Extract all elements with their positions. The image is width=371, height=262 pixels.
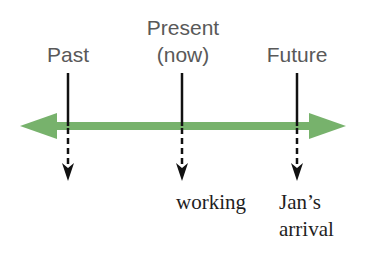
label-arrival: arrival <box>279 216 334 242</box>
present-down-arrow-icon <box>176 163 188 181</box>
label-now: (now) <box>137 43 229 67</box>
arrowhead-right-icon <box>309 113 346 139</box>
past-down-arrow-icon <box>62 163 74 181</box>
label-future: Future <box>257 43 337 67</box>
label-past: Past <box>38 43 98 67</box>
label-present: Present <box>137 16 229 40</box>
label-jans: Jan’s <box>279 189 321 215</box>
future-down-arrow-icon <box>291 163 303 181</box>
label-working: working <box>176 189 246 215</box>
timeline-diagram: Past Present (now) Future working Jan’s … <box>0 0 371 262</box>
arrowhead-left-icon <box>20 113 57 139</box>
